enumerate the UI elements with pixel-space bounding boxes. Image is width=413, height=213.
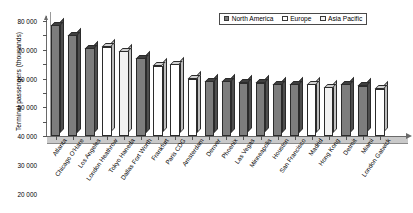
bar-face	[119, 51, 128, 136]
bar-face	[68, 35, 77, 136]
bar-face	[341, 84, 350, 136]
bar-atlanta	[51, 25, 60, 136]
bar-paris-cdg	[170, 64, 179, 136]
bar-side	[128, 44, 132, 132]
bar-face	[222, 81, 231, 136]
bar-london-heathrow	[102, 47, 111, 136]
bar-side	[384, 82, 388, 133]
bar-face	[85, 48, 94, 136]
y-tick: 50 000	[43, 64, 47, 65]
bar-frankfurt	[153, 66, 162, 136]
legend-swatch-europe	[282, 16, 287, 21]
bar-amsterdam	[188, 79, 197, 137]
y-tick-label: 30 000	[17, 161, 37, 168]
bar-hong-kong	[324, 87, 333, 136]
bar-face	[290, 84, 299, 136]
bar-chart: Terminal passengers (thousands) 80 00070…	[0, 0, 413, 213]
y-tick: 60 000	[43, 50, 47, 51]
bar-side	[197, 71, 201, 132]
bar-chicago-o-hare	[68, 35, 77, 136]
chart-legend: North America Europe Asia Pacific	[219, 13, 367, 25]
bar-side	[231, 74, 235, 132]
bar-las-vegas	[239, 83, 248, 136]
y-tick-label: 50 000	[17, 104, 37, 111]
bar-face	[153, 66, 162, 136]
legend-swatch-north-america	[224, 16, 229, 21]
bar-side	[316, 77, 320, 132]
y-tick: 20 000	[43, 107, 47, 108]
bar-dallas-fort-worth	[136, 58, 145, 136]
bar-detroit	[341, 84, 350, 136]
bar-face	[324, 87, 333, 136]
bar-phoenix	[222, 81, 231, 136]
legend-label-asia-pacific: Asia Pacific	[328, 16, 362, 23]
bar-face	[102, 47, 111, 136]
bar-side	[180, 57, 184, 132]
bar-los-angeles	[85, 48, 94, 136]
x-axis-label: Denver	[204, 137, 221, 158]
y-tick-label: 20 000	[17, 190, 37, 197]
legend-item-north-america: North America	[224, 16, 273, 23]
legend-item-asia-pacific: Asia Pacific	[320, 16, 362, 23]
bar-side	[60, 18, 64, 132]
bar-san-francisco	[290, 84, 299, 136]
bar-face	[273, 84, 282, 136]
legend-item-europe: Europe	[282, 16, 311, 23]
bar-side	[265, 76, 269, 133]
bar-side	[214, 74, 218, 132]
bar-face	[307, 84, 316, 136]
y-tick: 70 000	[43, 35, 47, 36]
y-tick: 30 000	[43, 93, 47, 94]
bar-side	[299, 77, 303, 132]
y-tick-label: 70 000	[17, 46, 37, 53]
bar-side	[146, 51, 150, 132]
bar-london-gatwick	[375, 89, 384, 136]
bar-face	[375, 89, 384, 136]
bar-side	[350, 77, 354, 132]
bar-minneapolis	[256, 83, 265, 136]
legend-label-north-america: North America	[232, 16, 274, 23]
y-tick-label: 80 000	[17, 18, 37, 25]
x-axis-label: Miami	[360, 137, 375, 155]
bar-face	[188, 79, 197, 137]
y-tick: 80 000	[43, 21, 47, 22]
bar-face	[136, 58, 145, 136]
bar-tokyo-haneda	[119, 51, 128, 136]
x-axis-label: Atlanta	[51, 137, 68, 157]
x-axis-label: Detroit	[342, 137, 358, 156]
bar-madrid	[307, 84, 316, 136]
y-axis-line	[46, 16, 47, 137]
bar-denver	[205, 81, 214, 136]
bar-face	[51, 25, 60, 136]
bar-houston	[273, 84, 282, 136]
bar-side	[248, 76, 252, 133]
bar-side	[163, 59, 167, 133]
x-axis-label: Madrid	[307, 137, 324, 157]
y-tick: 10 000	[43, 122, 47, 123]
y-tick-label: 60 000	[17, 75, 37, 82]
bar-face	[358, 86, 367, 136]
bar-miami	[358, 86, 367, 136]
bar-side	[94, 41, 98, 132]
bar-face	[170, 64, 179, 136]
bar-side	[367, 79, 371, 133]
y-tick-label: 40 000	[17, 133, 37, 140]
legend-label-europe: Europe	[290, 16, 311, 23]
bar-face	[239, 83, 248, 136]
x-axis-labels: AtlantaChicago O'HareLos AngelesLondon H…	[47, 137, 408, 213]
bar-face	[256, 83, 265, 136]
bar-face	[205, 81, 214, 136]
bar-side	[77, 28, 81, 132]
bar-side	[282, 77, 286, 132]
bar-side	[333, 80, 337, 132]
plot-area: 80 00070 00060 00050 00040 00030 00020 0…	[47, 21, 408, 136]
bar-side	[111, 40, 115, 133]
y-axis-arrow-icon	[44, 15, 48, 20]
y-tick: 40 000	[43, 79, 47, 80]
legend-swatch-asia-pacific	[320, 16, 325, 21]
